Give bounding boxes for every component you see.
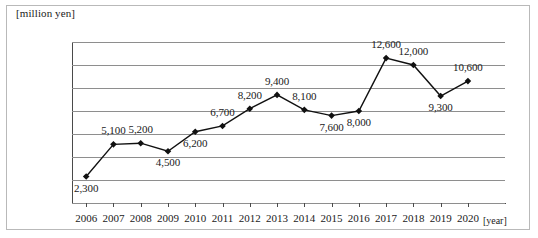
data-value-label: 5,200 [129,123,153,135]
data-point-marker [219,123,226,130]
x-axis-tick-label: 2015 [321,212,343,224]
x-axis-tick-label: 2012 [239,212,261,224]
x-axis-unit-label: [year] [483,215,507,226]
y-axis-tick-labels: 02,0004,0006,0008,00010,00012,00014,000 [0,0,68,238]
x-axis-tick-label: 2006 [75,212,97,224]
data-value-label: 8,200 [238,89,262,101]
x-axis-tick-label: 2020 [457,212,479,224]
x-axis-tick-label: 2013 [266,212,288,224]
data-point-marker [328,112,335,119]
data-value-label: 12,000 [399,45,429,57]
data-value-label: 6,200 [183,137,207,149]
data-value-label: 8,000 [347,116,371,128]
plot-area: 2,3005,1005,2004,5006,2006,7008,2009,400… [72,42,505,203]
data-point-marker [383,55,390,62]
data-point-marker [301,107,308,114]
data-value-label: 4,500 [156,156,180,168]
x-axis-tick-label: 2019 [430,212,452,224]
x-axis-tick-label: 2017 [375,212,397,224]
x-axis-tick-label: 2014 [293,212,315,224]
data-value-label: 8,100 [292,90,316,102]
data-point-marker [246,105,253,112]
x-axis-tick-label: 2018 [402,212,424,224]
data-value-label: 7,600 [319,121,343,133]
x-axis-tick-label: 2008 [130,212,152,224]
x-axis-tick-label: 2016 [348,212,370,224]
data-value-label: 6,700 [210,106,234,118]
data-point-marker [356,108,363,115]
x-axis-tick-label: 2009 [157,212,179,224]
data-value-label: 10,600 [453,61,483,73]
chart-screenshot: [million yen] 02,0004,0006,0008,00010,00… [0,0,538,238]
x-axis-tick-label: 2011 [212,212,234,224]
data-value-label: 5,100 [101,124,125,136]
data-value-label: 9,400 [265,75,289,87]
data-point-marker [274,92,281,99]
data-point-marker [465,78,472,85]
data-value-label: 9,300 [429,101,453,113]
data-value-label: 12,600 [371,38,401,50]
x-axis-tick-label: 2010 [184,212,206,224]
data-point-marker [137,140,144,147]
data-value-label: 2,300 [74,182,98,194]
x-axis-tick-label: 2007 [102,212,124,224]
